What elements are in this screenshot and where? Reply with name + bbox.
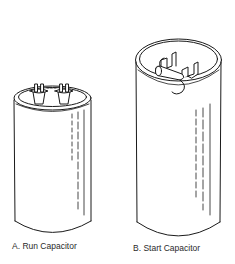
capacitor-diagram: A. Run Capacitor B. Start Capacitor [0, 0, 235, 264]
run-capacitor-label: A. Run Capacitor [12, 241, 77, 251]
start-capacitor-label: B. Start Capacitor [133, 243, 200, 253]
start-capacitor-icon [136, 39, 222, 236]
run-capacitor-icon [14, 84, 91, 233]
capacitor-illustration [0, 0, 235, 264]
